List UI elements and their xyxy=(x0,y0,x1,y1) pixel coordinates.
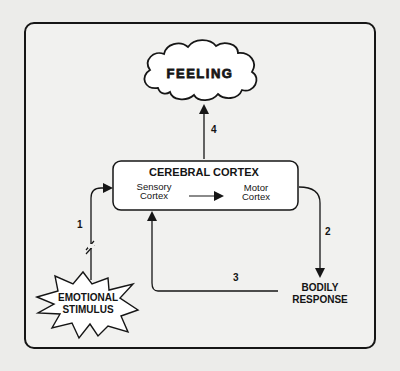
response-line1: BODILY xyxy=(302,282,339,293)
bodily-response: BODILY RESPONSE xyxy=(292,282,348,305)
cortex-title: CEREBRAL CORTEX xyxy=(149,166,259,178)
edge-3-label: 3 xyxy=(233,272,239,283)
edge-1-label: 1 xyxy=(77,219,83,230)
feeling-label: FEELING xyxy=(167,66,234,81)
motor-cortex-line2: Cortex xyxy=(242,191,270,202)
edge-4: 4 xyxy=(204,106,217,159)
stimulus-line1: EMOTIONAL xyxy=(58,292,118,303)
edge-4-label: 4 xyxy=(211,124,217,135)
edge-1: 1 xyxy=(77,188,111,280)
stimulus-line2: STIMULUS xyxy=(62,304,113,315)
response-line2: RESPONSE xyxy=(292,294,348,305)
sensory-cortex-line2: Cortex xyxy=(140,190,168,201)
emotional-stimulus-burst: EMOTIONAL STIMULUS xyxy=(37,272,138,338)
edge-2: 2 xyxy=(299,187,331,276)
edge-3: 3 xyxy=(152,213,278,291)
feeling-cloud: FEELING xyxy=(144,40,256,100)
edge-2-label: 2 xyxy=(325,226,331,237)
cerebral-cortex-box: CEREBRAL CORTEX Sensory Cortex Motor Cor… xyxy=(113,161,298,210)
diagram-canvas: FEELING 4 CEREBRAL CORTEX Sensory Cortex… xyxy=(0,0,400,371)
